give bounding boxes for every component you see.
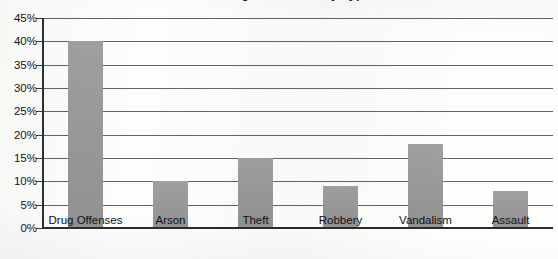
gridline-25: [43, 111, 553, 112]
chart-title: Percentage of Crimes by Type: [0, 0, 558, 1]
y-axis-label-35: 35%: [14, 59, 37, 71]
gridline-20: [43, 135, 553, 136]
y-axis-label-15: 15%: [14, 152, 37, 164]
y-axis-label-30: 30%: [14, 82, 37, 94]
gridline-30: [43, 88, 553, 89]
x-axis-label-drug-offenses: Drug Offenses: [49, 214, 123, 226]
bar-drug-offenses: [68, 41, 103, 228]
gridline-35: [43, 65, 553, 66]
y-axis-label-40: 40%: [14, 35, 37, 47]
y-axis-label-0: 0%: [20, 222, 37, 234]
x-axis-label-assault: Assault: [492, 214, 530, 226]
y-axis-label-5: 5%: [20, 199, 37, 211]
gridline-15: [43, 158, 553, 159]
x-axis-label-robbery: Robbery: [319, 214, 362, 226]
gridline-40: [43, 41, 553, 42]
y-axis-label-20: 20%: [14, 129, 37, 141]
bar-chart: Percentage of Crimes by Type 45%40%35%30…: [0, 0, 558, 259]
x-axis-label-vandalism: Vandalism: [399, 214, 452, 226]
y-axis-label-10: 10%: [14, 175, 37, 187]
y-axis-line: [42, 18, 44, 229]
y-axis-label-25: 25%: [14, 105, 37, 117]
x-axis-baseline: [43, 227, 553, 229]
x-axis-label-arson: Arson: [155, 214, 185, 226]
gridline-45: [43, 18, 553, 19]
plot-area: [43, 18, 553, 228]
y-axis-label-45: 45%: [14, 12, 37, 24]
gridline-5: [43, 205, 553, 206]
gridline-10: [43, 181, 553, 182]
x-axis-label-theft: Theft: [242, 214, 268, 226]
